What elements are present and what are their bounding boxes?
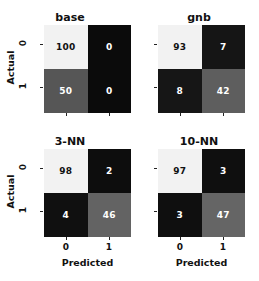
- cell-value: 4: [63, 211, 69, 220]
- y-tick-label-base-0: 0: [18, 36, 28, 50]
- subplot-gnb: gnb 93 7 8 42: [129, 10, 259, 132]
- heatmap-base: 100 0 50 0: [44, 25, 131, 113]
- cell-gnb-1-0: 8: [158, 69, 202, 113]
- subplot-3nn: 3-NN Actual 0 1 98 2 4 46 0 1 Predicted: [0, 134, 130, 281]
- cell-10nn-1-1: 47: [202, 193, 246, 237]
- cell-gnb-0-0: 93: [158, 25, 202, 69]
- cell-3nn-1-1: 46: [88, 193, 132, 237]
- cell-value: 3: [220, 167, 226, 176]
- y-tick-mark-10nn-0: [154, 168, 157, 169]
- x-tick-label-3nn-0: 0: [57, 242, 75, 252]
- y-tick-label-base-1: 1: [18, 79, 28, 93]
- subplot-title-10nn: 10-NN: [143, 134, 255, 149]
- cell-value: 0: [106, 43, 112, 52]
- y-tick-mark-10nn-1: [154, 211, 157, 212]
- y-axis-label-3nn: Actual: [5, 170, 16, 214]
- cell-10nn-1-0: 3: [158, 193, 202, 237]
- cell-value: 50: [59, 87, 72, 96]
- heatmap-10nn: 97 3 3 47: [158, 149, 245, 237]
- x-tick-label-10nn-0: 0: [171, 242, 189, 252]
- heatmap-3nn: 98 2 4 46: [44, 149, 131, 237]
- y-tick-mark-gnb-1: [154, 87, 157, 88]
- x-tick-label-3nn-1: 1: [100, 242, 118, 252]
- cell-value: 93: [173, 43, 186, 52]
- subplot-title-gnb: gnb: [143, 10, 255, 25]
- cell-value: 2: [106, 167, 112, 176]
- x-tick-mark-gnb-0: [180, 113, 181, 116]
- cell-3nn-0-0: 98: [44, 149, 88, 193]
- y-axis-label-base: Actual: [5, 46, 16, 90]
- cell-value: 47: [217, 211, 230, 220]
- y-tick-mark-3nn-1: [40, 211, 43, 212]
- cell-gnb-0-1: 7: [202, 25, 246, 69]
- cell-10nn-0-0: 97: [158, 149, 202, 193]
- cell-value: 3: [177, 211, 183, 220]
- cell-value: 97: [173, 167, 186, 176]
- x-tick-mark-base-1: [109, 113, 110, 116]
- y-tick-mark-base-0: [40, 44, 43, 45]
- y-tick-label-3nn-1: 1: [18, 203, 28, 217]
- subplot-10nn: 10-NN 97 3 3 47 0 1 Predicted: [129, 134, 259, 281]
- cell-gnb-1-1: 42: [202, 69, 246, 113]
- x-tick-mark-3nn-1: [109, 237, 110, 240]
- cell-base-1-0: 50: [44, 69, 88, 113]
- y-tick-label-3nn-0: 0: [18, 160, 28, 174]
- x-axis-label-3nn: Predicted: [44, 257, 131, 268]
- cell-3nn-0-1: 2: [88, 149, 132, 193]
- cell-value: 7: [220, 43, 226, 52]
- x-tick-mark-base-0: [66, 113, 67, 116]
- cell-base-0-1: 0: [88, 25, 132, 69]
- x-tick-mark-10nn-0: [180, 237, 181, 240]
- y-tick-mark-3nn-0: [40, 168, 43, 169]
- subplot-title-base: base: [14, 10, 126, 25]
- y-tick-mark-gnb-0: [154, 44, 157, 45]
- y-tick-mark-base-1: [40, 87, 43, 88]
- cell-value: 98: [59, 167, 72, 176]
- subplot-title-3nn: 3-NN: [14, 134, 126, 149]
- cell-value: 100: [56, 43, 75, 52]
- x-tick-label-10nn-1: 1: [214, 242, 232, 252]
- cell-base-1-1: 0: [88, 69, 132, 113]
- cell-value: 42: [217, 87, 230, 96]
- subplot-base: base Actual 0 1 100 0 50 0: [0, 10, 130, 132]
- cell-base-0-0: 100: [44, 25, 88, 69]
- x-tick-mark-gnb-1: [223, 113, 224, 116]
- cell-value: 0: [106, 87, 112, 96]
- cell-3nn-1-0: 4: [44, 193, 88, 237]
- x-axis-label-10nn: Predicted: [158, 257, 245, 268]
- x-tick-mark-10nn-1: [223, 237, 224, 240]
- cell-10nn-0-1: 3: [202, 149, 246, 193]
- cell-value: 8: [177, 87, 183, 96]
- x-tick-mark-3nn-0: [66, 237, 67, 240]
- cell-value: 46: [103, 211, 116, 220]
- confusion-matrix-figure: base Actual 0 1 100 0 50 0 gnb: [0, 0, 259, 281]
- heatmap-gnb: 93 7 8 42: [158, 25, 245, 113]
